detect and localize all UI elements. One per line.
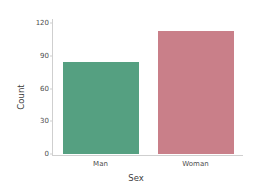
plot-area [53,21,243,154]
bar-woman [158,31,234,154]
x-tick-label: Man [93,161,108,168]
x-axis-spine [52,155,243,156]
x-axis-title: Sex [0,174,272,183]
x-tick-label: Woman [182,161,208,168]
chart-figure: 0306090120 ManWoman Count Sex [0,0,272,194]
bar-man [63,62,139,154]
y-axis-title: Count [17,84,26,109]
